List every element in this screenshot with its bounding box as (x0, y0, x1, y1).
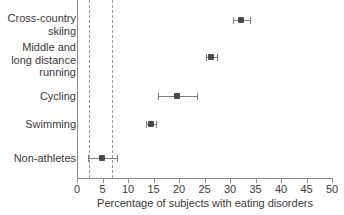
upper-reference-line (112, 0, 113, 178)
error-bar-cap (156, 121, 157, 128)
error-bar-cap (233, 17, 234, 24)
error-bar-cap (197, 93, 198, 100)
category-label: Swimming (0, 118, 76, 131)
error-bar-cap (206, 54, 207, 61)
error-bar-cap (88, 155, 89, 162)
data-point-marker (238, 17, 244, 23)
category-label: Cross-country skiing (0, 12, 76, 37)
x-axis-tick-label: 50 (317, 183, 344, 196)
data-point-marker (148, 121, 154, 127)
data-point-marker (208, 54, 214, 60)
error-bar-cap (217, 54, 218, 61)
category-label: Cycling (0, 90, 76, 103)
error-bar-cap (158, 93, 159, 100)
forest-plot-chart: Cross-country skiingMiddle and long dist… (0, 0, 344, 215)
error-bar-cap (117, 155, 118, 162)
lower-reference-line (89, 0, 90, 178)
data-point-marker (99, 155, 105, 161)
error-bar-cap (250, 17, 251, 24)
data-point-marker (174, 93, 180, 99)
y-axis-line (77, 0, 78, 178)
x-axis-title: Percentage of subjects with eating disor… (77, 197, 333, 210)
category-label: Middle and long distance running (0, 41, 76, 79)
category-label: Non-athletes (0, 152, 76, 165)
